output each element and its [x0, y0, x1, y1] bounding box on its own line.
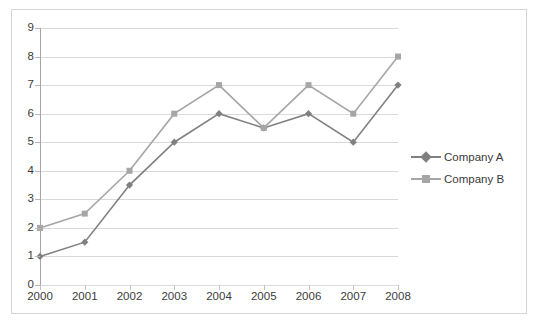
data-point-square-icon [261, 125, 267, 131]
legend-key-square-icon [411, 173, 441, 185]
y-axis-tick-label: 6 [8, 108, 34, 120]
x-axis-tick [309, 285, 310, 290]
y-axis-tick [35, 57, 40, 58]
x-axis-tick-label: 2003 [151, 291, 197, 303]
x-axis-labels: 200020012002200320042005200620072008 [40, 291, 398, 311]
y-axis-tick-label: 9 [8, 22, 34, 34]
y-axis-tick [35, 114, 40, 115]
y-axis-tick-label: 2 [8, 222, 34, 234]
y-axis-tick-label: 7 [8, 79, 34, 91]
x-axis-tick-label: 2000 [17, 291, 63, 303]
data-point-square-icon [306, 82, 312, 88]
legend-item-company-a[interactable]: Company A [411, 146, 521, 168]
x-axis-tick [85, 285, 86, 290]
x-axis-tick-label: 2005 [241, 291, 287, 303]
y-axis-labels: 0123456789 [4, 28, 34, 285]
x-axis-tick [40, 285, 41, 290]
legend-key-diamond-icon [411, 151, 441, 163]
y-axis-tick-label: 5 [8, 136, 34, 148]
data-point-square-icon [171, 111, 177, 117]
x-axis-tick-label: 2004 [196, 291, 242, 303]
x-axis-tick-label: 2008 [375, 291, 421, 303]
x-axis-tick [174, 285, 175, 290]
data-point-square-icon [350, 111, 356, 117]
legend-label: Company A [441, 151, 503, 163]
y-axis-tick [35, 199, 40, 200]
y-axis-tick [35, 256, 40, 257]
y-axis-tick [35, 28, 40, 29]
x-axis-tick [130, 285, 131, 290]
data-point-square-icon [395, 54, 401, 60]
y-axis-tick [35, 171, 40, 172]
y-axis-tick-label: 8 [8, 51, 34, 63]
data-point-square-icon [82, 211, 88, 217]
x-axis-tick-label: 2007 [330, 291, 376, 303]
legend-label: Company B [441, 173, 504, 185]
x-axis-tick-label: 2002 [107, 291, 153, 303]
legend-item-company-b[interactable]: Company B [411, 168, 521, 190]
x-axis-tick [398, 285, 399, 290]
y-axis-tick [35, 85, 40, 86]
data-point-square-icon [216, 82, 222, 88]
x-axis-tick [219, 285, 220, 290]
series-layer [40, 28, 398, 285]
legend: Company A Company B [411, 146, 521, 190]
y-axis-tick [35, 228, 40, 229]
x-axis-tick [264, 285, 265, 290]
line-chart: 0123456789 20002001200220032004200520062… [0, 0, 539, 327]
y-axis-tick-label: 1 [8, 251, 34, 263]
y-axis-tick-label: 3 [8, 194, 34, 206]
data-point-square-icon [127, 168, 133, 174]
x-axis-tick-label: 2006 [286, 291, 332, 303]
y-axis-tick [35, 142, 40, 143]
x-axis-tick-label: 2001 [62, 291, 108, 303]
x-axis-tick [353, 285, 354, 290]
y-axis-tick-label: 4 [8, 165, 34, 177]
